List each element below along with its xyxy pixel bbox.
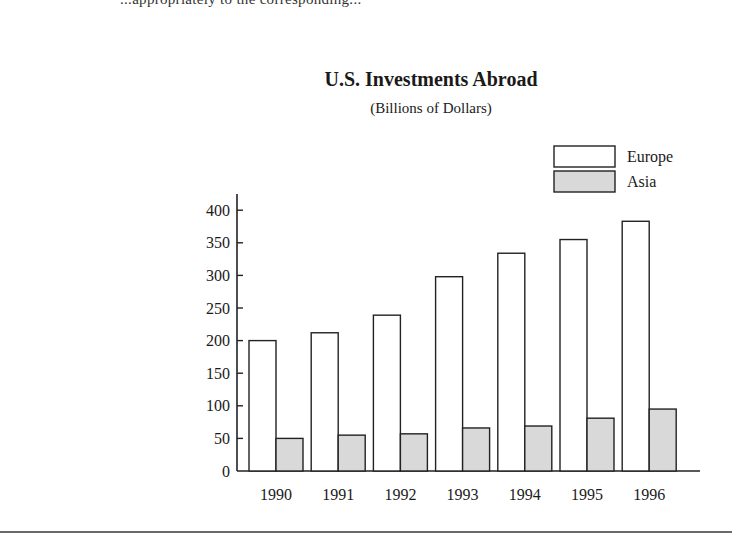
x-tick-label: 1992: [384, 486, 416, 503]
bar-europe: [249, 341, 276, 471]
bar-europe: [498, 253, 525, 471]
bar-asia: [276, 438, 303, 471]
y-tick-label: 400: [206, 202, 230, 219]
bar-europe: [373, 315, 400, 471]
bar-chart: 0501001502002503003504001990199119921993…: [0, 0, 732, 550]
y-tick-label: 250: [206, 300, 230, 317]
bar-europe: [560, 240, 587, 471]
bar-europe: [311, 333, 338, 471]
divider: [0, 531, 732, 533]
x-tick-label: 1995: [571, 486, 603, 503]
bar-asia: [587, 418, 614, 471]
x-tick-label: 1994: [509, 486, 541, 503]
x-tick-label: 1993: [447, 486, 479, 503]
y-tick-label: 0: [222, 463, 230, 480]
x-tick-label: 1996: [633, 486, 665, 503]
legend-swatch-europe: [554, 146, 615, 167]
legend-label-asia: Asia: [627, 173, 656, 190]
x-tick-label: 1990: [260, 486, 292, 503]
legend-swatch-asia: [554, 171, 615, 192]
bar-europe: [436, 277, 463, 471]
y-tick-label: 300: [206, 267, 230, 284]
legend-label-europe: Europe: [627, 148, 673, 166]
bar-asia: [400, 434, 427, 471]
y-tick-label: 150: [206, 365, 230, 382]
bar-asia: [463, 428, 490, 471]
y-tick-label: 200: [206, 332, 230, 349]
bar-europe: [622, 221, 649, 471]
bar-asia: [649, 409, 676, 471]
bar-asia: [338, 435, 365, 471]
y-tick-label: 50: [214, 430, 230, 447]
bar-asia: [525, 426, 552, 471]
y-tick-label: 350: [206, 234, 230, 251]
y-tick-label: 100: [206, 397, 230, 414]
x-tick-label: 1991: [322, 486, 354, 503]
